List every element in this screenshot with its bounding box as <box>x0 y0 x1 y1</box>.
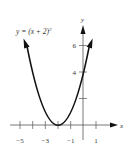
x-tick-label: −5 <box>16 137 24 145</box>
equation-label: y = (x + 2)2 <box>15 27 52 36</box>
parabola-graph: −5 −3 −1 1 4 6 x y y = (x + 2)2 <box>0 0 133 153</box>
y-axis-arrow-icon <box>81 25 86 34</box>
parabola-curve <box>27 46 89 125</box>
x-tick-label: 1 <box>94 137 98 145</box>
x-tick-label: −3 <box>42 137 50 145</box>
y-axis-label: y <box>80 16 85 24</box>
x-axis-arrow-icon <box>110 123 118 128</box>
y-tick-label: 4 <box>73 69 77 77</box>
x-tick-label: −1 <box>67 137 75 145</box>
y-tick-label: 6 <box>73 42 77 50</box>
curve-left-arrow-icon <box>24 39 30 49</box>
x-axis-label: x <box>119 122 124 130</box>
curve-right-arrow-icon <box>87 39 93 49</box>
